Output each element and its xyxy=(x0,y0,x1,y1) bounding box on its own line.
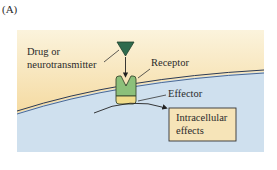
ligand-label-line1: Drug or xyxy=(27,46,60,57)
effects-label-line2: effects xyxy=(176,125,204,136)
panel-label: (A) xyxy=(2,3,18,16)
effector-label: Effector xyxy=(168,88,203,99)
ligand-label-line2: neurotransmitter xyxy=(27,59,97,70)
effects-label-line1: Intracellular xyxy=(176,112,228,123)
receptor-label: Receptor xyxy=(151,57,189,68)
signaling-diagram: (A) Drug or neurotransmitter Receptor Ef… xyxy=(0,0,277,170)
